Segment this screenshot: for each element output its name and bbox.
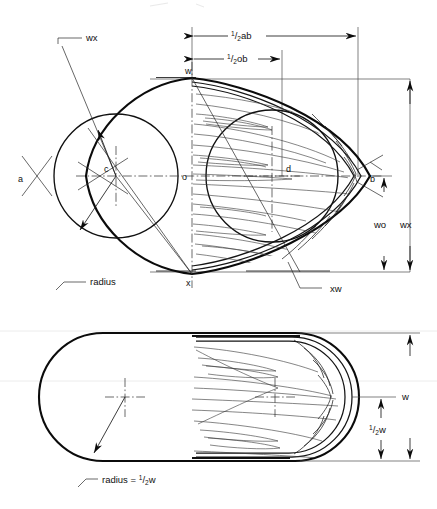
- paper-background: [0, 0, 437, 509]
- point-label-a: a: [18, 174, 23, 184]
- leader-wx-upper-left-label: wx: [85, 32, 98, 43]
- point-label-d: d: [286, 164, 291, 174]
- dimension-w-label: w: [401, 391, 409, 402]
- point-label-w: w: [184, 66, 192, 76]
- dimension-half-ab-label: 1/2ab: [231, 30, 252, 42]
- technical-drawing-figure: 1/2ab 1/2ob: [0, 0, 437, 509]
- dimension-wx-right-label: wx: [399, 219, 412, 230]
- leader-radius-label: radius: [90, 276, 116, 287]
- dimension-half-ob-label: 1/2ob: [227, 53, 248, 65]
- leader-xw-label: xw: [330, 283, 342, 294]
- point-label-x: x: [186, 278, 191, 288]
- point-label-o: o: [182, 172, 187, 182]
- point-label-b: b: [370, 174, 375, 184]
- point-label-c: c: [104, 164, 109, 174]
- dimension-wo-label: wo: [373, 219, 386, 230]
